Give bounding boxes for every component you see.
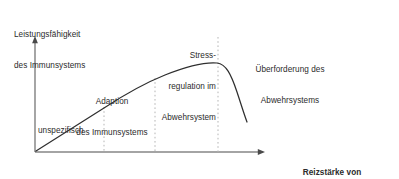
y-axis-title-line2: des Immunsystems: [14, 61, 85, 71]
annotation-stressregulation-line2: regulation im: [146, 82, 216, 92]
annotation-stressregulation-line1: Stress-: [146, 51, 216, 61]
annotation-ueberforderung-line1: Überforderung des: [226, 65, 354, 75]
annotation-stressregulation-line3: Abwehrsystem: [146, 113, 216, 123]
y-axis-title-line1: Leistungsfähigkeit: [14, 30, 85, 40]
annotation-ueberforderung: Überforderung des Abwehrsystems: [226, 44, 354, 127]
annotation-stressregulation: Stress- regulation im Abwehrsystem: [146, 30, 216, 144]
immune-performance-chart: Leistungsfähigkeit des Immunsystems Reiz…: [0, 0, 399, 179]
x-axis-title-line1: Reizstärke von: [265, 168, 399, 178]
x-axis-title: Reizstärke von Training und Wettkampf: [265, 147, 399, 179]
annotation-ueberforderung-line2: Abwehrsystems: [226, 96, 354, 106]
